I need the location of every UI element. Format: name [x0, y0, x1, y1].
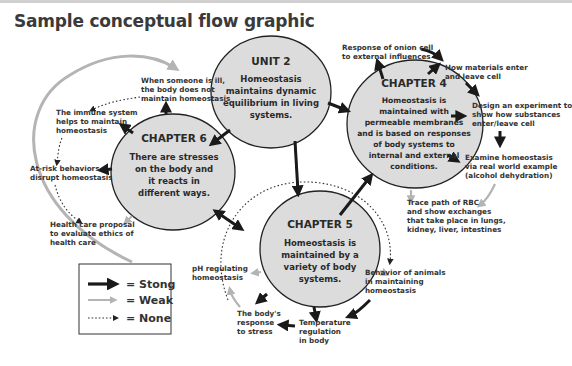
label-animals: Behavior of animals in maintaining homeo…	[365, 268, 446, 295]
concept-flow-diagram: UNIT 2 Homeostasis maintains dynamic equ…	[0, 0, 572, 366]
svg-text:= None: = None	[126, 312, 171, 325]
svg-text:and is based on responses: and is based on responses	[357, 129, 471, 138]
svg-text:Homeostasis: Homeostasis	[240, 74, 301, 84]
svg-text:disrupt homeostasis: disrupt homeostasis	[30, 173, 113, 182]
svg-text:enter/leave cell: enter/leave cell	[472, 119, 535, 128]
svg-text:systems.: systems.	[299, 274, 342, 284]
svg-text:pH regulating: pH regulating	[192, 264, 248, 273]
svg-text:permeable membranes: permeable membranes	[365, 118, 464, 127]
label-stress: The body's response to stress	[237, 309, 281, 336]
arrow-temp-stress	[282, 325, 295, 326]
svg-text:There are stresses: There are stresses	[129, 152, 218, 162]
svg-text:Trace path of RBC: Trace path of RBC	[407, 198, 479, 207]
svg-text:When someone is ill,: When someone is ill,	[141, 76, 225, 85]
svg-text:maintains dynamic: maintains dynamic	[226, 86, 317, 96]
svg-text:health care: health care	[50, 238, 96, 247]
label-immune: The immune system helps to maintain home…	[56, 108, 138, 135]
svg-text:maintain homeostasis: maintain homeostasis	[141, 94, 230, 103]
svg-text:to external influences: to external influences	[342, 52, 431, 61]
weak-examine-rbc	[480, 184, 495, 205]
svg-text:regulation: regulation	[299, 327, 341, 336]
label-atrisk: At-risk behaviors disrupt homeostasis	[30, 164, 113, 182]
label-examine: Examine homeostasis via real world examp…	[465, 153, 557, 180]
svg-text:Temperature: Temperature	[299, 318, 351, 327]
arrow-unit2-ch4	[328, 103, 346, 110]
svg-text:The body's: The body's	[237, 309, 281, 318]
svg-text:homeostasis: homeostasis	[365, 286, 416, 295]
svg-text:and leave cell: and leave cell	[445, 72, 501, 81]
arrow-ch5-stress	[259, 294, 267, 301]
svg-text:maintained with: maintained with	[379, 107, 449, 116]
svg-text:CHAPTER 5: CHAPTER 5	[287, 218, 353, 230]
svg-text:Design an experiment to: Design an experiment to	[472, 101, 572, 110]
svg-text:via real world example: via real world example	[465, 162, 557, 171]
arrow-animals-temp	[350, 300, 370, 316]
label-ph: pH regulating homeostasis	[192, 264, 248, 282]
node-ch5	[260, 191, 380, 307]
svg-text:internal and external: internal and external	[369, 151, 460, 160]
legend: = Stong = Weak = None	[79, 264, 176, 334]
svg-text:and show exchanges: and show exchanges	[407, 207, 491, 216]
svg-text:Homeostasis is: Homeostasis is	[382, 96, 447, 105]
svg-text:it reacts in: it reacts in	[148, 176, 200, 186]
arrow-unit2-ch5	[295, 141, 298, 192]
weak-ch5-ph	[254, 272, 261, 273]
svg-text:conditions.: conditions.	[390, 162, 438, 171]
dotted-immune-atrisk	[57, 138, 62, 163]
svg-text:that take place in lungs,: that take place in lungs,	[407, 216, 506, 225]
svg-text:equilibrium in living: equilibrium in living	[223, 98, 319, 108]
svg-text:of body systems to: of body systems to	[373, 140, 455, 149]
svg-text:variety of body: variety of body	[284, 262, 357, 272]
label-rbc: Trace path of RBC and show exchanges tha…	[407, 198, 506, 234]
svg-text:Examine homeostasis: Examine homeostasis	[465, 153, 553, 162]
label-design: Design an experiment to show how substan…	[472, 101, 572, 128]
svg-text:CHAPTER 4: CHAPTER 4	[381, 77, 447, 89]
svg-text:Homeostasis is: Homeostasis is	[284, 238, 356, 248]
svg-text:maintained by a: maintained by a	[281, 250, 359, 260]
svg-text:to evaluate ethics of: to evaluate ethics of	[50, 229, 134, 238]
svg-text:different ways.: different ways.	[138, 188, 210, 198]
svg-text:response: response	[237, 318, 274, 327]
label-onion: Response of onion cell to external influ…	[342, 43, 433, 61]
node-ch6-text: CHAPTER 6 There are stresses on the body…	[129, 132, 218, 198]
svg-text:At-risk behaviors: At-risk behaviors	[30, 164, 99, 173]
svg-text:= Stong: = Stong	[126, 278, 176, 291]
svg-text:show how substances: show how substances	[472, 110, 560, 119]
svg-text:(alcohol dehydration): (alcohol dehydration)	[465, 171, 552, 180]
svg-text:Behavior of animals: Behavior of animals	[365, 268, 446, 277]
arrow-ch5-temp	[314, 307, 316, 318]
label-healthcare: Health care proposal to evaluate ethics …	[50, 220, 135, 247]
svg-text:homeostasis: homeostasis	[192, 273, 243, 282]
svg-text:UNIT 2: UNIT 2	[251, 55, 290, 67]
svg-text:kidney, liver, intestines: kidney, liver, intestines	[407, 225, 501, 234]
svg-text:systems.: systems.	[250, 110, 293, 120]
svg-text:helps to maintain: helps to maintain	[56, 117, 127, 126]
svg-text:in maintaining: in maintaining	[365, 277, 424, 286]
weak-stress-ph	[230, 290, 240, 307]
arrow-ch6-atrisk	[102, 169, 112, 170]
label-temp: Temperature regulation in body	[299, 318, 351, 345]
svg-text:How materials enter: How materials enter	[445, 63, 528, 72]
svg-text:on the body and: on the body and	[135, 164, 213, 174]
svg-text:in body: in body	[299, 336, 329, 345]
label-materials: How materials enter and leave cell	[445, 63, 528, 81]
svg-text:to stress: to stress	[237, 327, 273, 336]
svg-text:Health care proposal: Health care proposal	[50, 220, 135, 229]
svg-text:The immune system: The immune system	[56, 108, 138, 117]
svg-text:CHAPTER 6: CHAPTER 6	[141, 132, 207, 144]
svg-text:the body does not: the body does not	[141, 85, 215, 94]
svg-text:homeostasis: homeostasis	[56, 126, 107, 135]
svg-text:Response of onion cell: Response of onion cell	[342, 43, 433, 52]
svg-text:= Weak: = Weak	[126, 294, 174, 307]
